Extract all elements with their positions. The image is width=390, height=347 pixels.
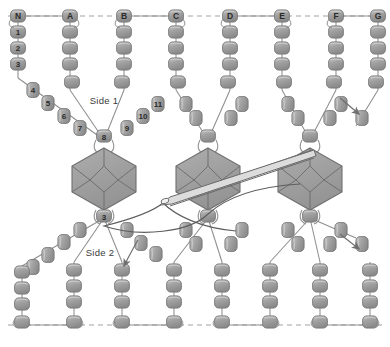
- bead-column-D: [221, 26, 238, 88]
- bead-column-E: [275, 26, 292, 88]
- anchor-bead-N: N: [9, 10, 25, 28]
- diagram-canvas: N A B C D E F: [0, 0, 390, 347]
- bead-column-N: [11, 26, 26, 70]
- bead-column-B: [115, 26, 132, 88]
- bead-column-F: [327, 26, 344, 88]
- anchor-bead-C: C: [169, 10, 185, 28]
- netting-bead-vertex-8: [97, 130, 112, 142]
- netting-beads-left-descending: [27, 83, 86, 136]
- netting-beads-bottom-center: [180, 210, 248, 252]
- side-two-label: Side 2: [86, 247, 115, 258]
- anchor-bead-B: B: [115, 10, 131, 28]
- bead-column-G: [369, 26, 386, 88]
- bead-columns-bottom: [15, 264, 378, 328]
- anchor-bead-F: F: [327, 10, 343, 28]
- netting-beads-left-ascending: [121, 97, 164, 136]
- anchor-bead-D: D: [221, 10, 237, 28]
- anchor-bead-E: E: [275, 10, 291, 28]
- side-one-label: Side 1: [90, 95, 119, 106]
- beadwork-diagram: N A B C D E F: [0, 0, 390, 347]
- netting-beads-right: [282, 97, 368, 142]
- anchor-bead-G: G: [371, 10, 386, 22]
- netting-beads-bottom-right: [282, 210, 368, 252]
- anchor-bead-A: A: [63, 10, 79, 28]
- bead-column-C: [169, 26, 186, 88]
- rosette-left: [72, 148, 136, 210]
- netting-beads-center: [180, 97, 248, 142]
- thread-arrow-side-two: [124, 240, 138, 266]
- bead-column-A: [63, 26, 80, 88]
